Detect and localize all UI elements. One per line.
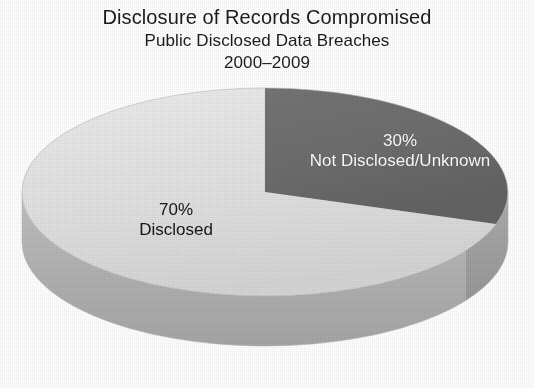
pie-chart-svg (0, 0, 534, 388)
pie-plot-area (0, 0, 534, 388)
pie-chart-figure: Disclosure of Records Compromised Public… (0, 0, 534, 388)
pie-top-face (22, 88, 508, 296)
